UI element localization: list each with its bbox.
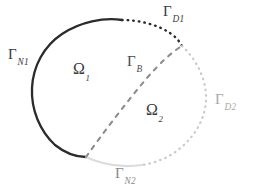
label-gamma-d2: ΓD2: [215, 92, 236, 110]
label-gamma-d2-sub: D2: [224, 102, 236, 112]
label-omega-2-base: Ω: [146, 101, 158, 118]
label-gamma-n1-sub: N1: [17, 57, 28, 67]
label-omega-2: Ω2: [146, 102, 163, 121]
label-gamma-n2-base: Γ: [115, 165, 124, 181]
label-gamma-n2: ΓN2: [115, 166, 135, 184]
label-gamma-b: ΓB: [127, 54, 142, 72]
label-gamma-n1: ΓN1: [8, 47, 28, 65]
label-gamma-d2-base: Γ: [215, 91, 224, 107]
figure-container: ΓN1 ΓD1 ΓD2 ΓN2 ΓB Ω1 Ω2: [0, 0, 253, 194]
label-gamma-b-base: Γ: [127, 53, 136, 69]
label-gamma-n2-sub: N2: [124, 176, 135, 186]
label-omega-1-base: Ω: [73, 60, 85, 77]
label-omega-2-sub: 2: [159, 114, 164, 124]
gamma-n2-arc: [86, 157, 142, 166]
label-gamma-d1: ΓD1: [163, 4, 184, 22]
label-omega-1-sub: 1: [86, 73, 91, 83]
label-gamma-d1-base: Γ: [163, 3, 172, 19]
label-gamma-d1-sub: D1: [172, 14, 184, 24]
gamma-n1-arc: [32, 19, 122, 157]
label-gamma-n1-base: Γ: [8, 46, 17, 62]
label-gamma-b-sub: B: [136, 64, 142, 74]
label-omega-1: Ω1: [73, 61, 90, 80]
